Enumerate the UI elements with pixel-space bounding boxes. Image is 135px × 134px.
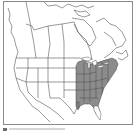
map-caption — [3, 127, 65, 131]
caption-text-illegible — [9, 128, 65, 130]
west-coastline — [8, 8, 18, 58]
hudson-bay — [72, 18, 96, 46]
range-map — [3, 1, 133, 125]
caption-bullet — [3, 128, 7, 131]
mexico-coast — [26, 98, 50, 122]
florida-peninsula — [94, 106, 101, 120]
north-america-map — [4, 2, 132, 124]
arctic-coastline — [44, 2, 94, 8]
highlighted-range — [76, 58, 118, 114]
